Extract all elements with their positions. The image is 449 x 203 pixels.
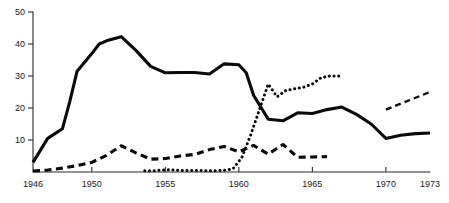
series-line-dashed <box>33 144 327 171</box>
x-tick-label: 1946 <box>23 179 43 189</box>
chart-series-group <box>33 37 430 171</box>
x-tick-label: 1960 <box>229 179 249 189</box>
y-axis-tick-labels: 1020304050 <box>15 7 25 145</box>
y-tick-label: 40 <box>15 39 25 49</box>
x-tick-label: 1955 <box>155 179 175 189</box>
series-line-dotted <box>145 76 339 171</box>
x-tick-label: 1973 <box>420 179 440 189</box>
x-tick-label: 1970 <box>376 179 396 189</box>
y-tick-label: 10 <box>15 135 25 145</box>
y-tick-label: 30 <box>15 71 25 81</box>
x-axis-tick-labels: 1946195019551960196519701973 <box>23 179 440 189</box>
y-tick-label: 20 <box>15 103 25 113</box>
y-tick-label: 50 <box>15 7 25 17</box>
series-line-dashed-short <box>386 92 430 110</box>
chart-container: 1020304050 1946195019551960196519701973 <box>0 0 449 203</box>
line-chart: 1020304050 1946195019551960196519701973 <box>0 0 449 203</box>
chart-tick-marks <box>28 12 386 172</box>
x-tick-label: 1950 <box>82 179 102 189</box>
x-tick-label: 1965 <box>302 179 322 189</box>
series-line-solid <box>33 37 430 163</box>
